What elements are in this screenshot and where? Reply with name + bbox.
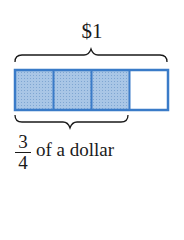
part-4-unshaded xyxy=(130,71,167,109)
top-brace xyxy=(15,49,167,62)
fraction-numerator: 3 xyxy=(15,133,31,153)
fraction-caption: of a dollar xyxy=(36,140,114,160)
fraction: 3 4 xyxy=(15,133,31,172)
part-1-shaded xyxy=(16,71,53,109)
part-2-shaded xyxy=(54,71,91,109)
part-3-shaded xyxy=(92,71,129,109)
bottom-brace xyxy=(15,115,128,128)
fraction-denominator: 4 xyxy=(15,153,31,172)
